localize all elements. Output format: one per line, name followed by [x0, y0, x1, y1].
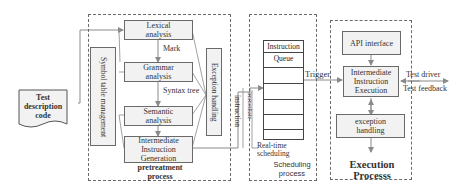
exception-handling-exec-box: exception handling [336, 114, 405, 138]
trigger-label: Trigger [305, 70, 330, 79]
lexical-analysis-label: Lexical analysis [134, 21, 184, 39]
queue-title-2: Queue [264, 53, 303, 68]
exec-exception-label: exception handling [351, 117, 391, 135]
test-feedback-label: Test feedback [403, 84, 447, 93]
queue-slot [264, 68, 303, 84]
semantic-analysis-box: Semantic analysis [124, 106, 193, 126]
test-description-code: Test description code [19, 93, 67, 120]
real-time-scheduling-label: Real-time scheduling [257, 142, 307, 158]
syntax-tree-label: Syntax tree [163, 86, 199, 95]
queue-slot [264, 115, 303, 130]
queue-title-1: Instruction [264, 41, 303, 53]
test-driver-label: Test driver [406, 70, 440, 79]
execution-process-title: Execution Processs [337, 159, 407, 181]
exception-handling-box: Exception handling [206, 48, 222, 136]
mark-label: Mark [163, 44, 180, 53]
semantic-analysis-label: Semantic analysis [134, 107, 184, 125]
grammar-analysis-box: Grammar analysis [124, 62, 193, 82]
intermediate-instruction-generation-box: Intermediate Instruction Generation [124, 136, 193, 163]
pretreatment-process-title: pretreatment process [130, 163, 190, 181]
lexical-analysis-box: Lexical analysis [124, 20, 193, 40]
exception-handling-label: Exception handling [210, 63, 218, 122]
api-interface-label: API interface [350, 39, 393, 48]
iig-label: Intermediate Instruction Generation [129, 136, 189, 163]
api-interface-box: API interface [342, 31, 401, 55]
instruction-queue: Instruction Queue [263, 40, 304, 140]
exec-label: Intermediate Instruction Execution [346, 68, 396, 95]
symbol-table-management-box: Symbol table management [90, 47, 116, 146]
queue-slot [264, 100, 303, 115]
instruction-link-label: instruction [233, 95, 241, 127]
symbol-table-label: Symbol table management [99, 57, 107, 137]
grammar-analysis-label: Grammar analysis [134, 63, 184, 81]
intermediate-instruction-execution-box: Intermediate Instruction Execution [343, 66, 399, 97]
queue-slot [264, 84, 303, 100]
scheduling-process-title: Scheduling process [268, 160, 316, 178]
